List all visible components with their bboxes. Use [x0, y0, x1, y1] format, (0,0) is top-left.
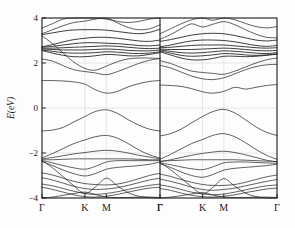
- x-tick-label: Γ: [39, 202, 45, 213]
- y-tick-label: −2: [28, 148, 38, 158]
- band-structure-plot: 420−2−4ΓKMΓKMΓΓ E(eV): [0, 0, 295, 228]
- y-tick-label: 0: [34, 103, 39, 113]
- x-tick-label: K: [199, 202, 207, 213]
- x-tick-label: M: [219, 202, 228, 213]
- y-tick-label: 4: [34, 13, 39, 23]
- band-structure-figure: 420−2−4ΓKMΓKMΓΓ E(eV): [0, 0, 295, 228]
- x-tick-label: K: [81, 202, 89, 213]
- y-tick-label: 2: [34, 58, 39, 68]
- y-tick-label: −4: [28, 193, 38, 203]
- x-tick-label: Γ: [274, 202, 280, 213]
- y-axis-label-text: E(eV): [6, 97, 17, 120]
- y-axis-label: E(eV): [6, 97, 17, 120]
- x-tick-label: Γ: [157, 202, 163, 213]
- x-tick-label: M: [102, 202, 111, 213]
